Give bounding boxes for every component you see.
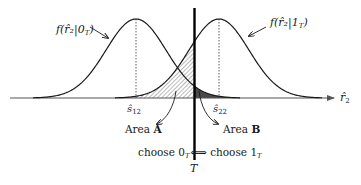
right-curve-label: f(r̂₂|1T) (269, 16, 308, 30)
likelihood-threshold-diagram: f(r̂₂|0T) f(r̂₂|1T) ŝ12 ŝ22 r̂2 Area A A… (0, 0, 361, 185)
curve-given-1T (115, 19, 322, 98)
x-axis-label: r̂2 (340, 91, 350, 105)
s12-label: ŝ12 (127, 103, 141, 116)
choose-1T-label: ⇒ choose 1T (198, 146, 263, 160)
area-b-label: Area B (222, 123, 260, 135)
choose-0T-label: choose 0T⇐ (138, 146, 200, 160)
right-curve-pointer (249, 27, 266, 36)
area-a-label: Area A (124, 123, 162, 135)
s22-label: ŝ22 (213, 103, 227, 116)
threshold-label: T (190, 162, 199, 175)
left-curve-label: f(r̂₂|0T) (55, 23, 94, 37)
